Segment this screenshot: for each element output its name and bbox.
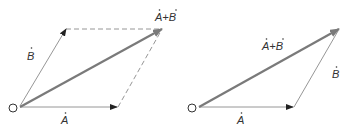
- dot-accent-icon: [241, 112, 243, 114]
- dot-accent-icon: [31, 47, 33, 49]
- left-diagram-parallelogram: B A A+B: [9, 9, 177, 126]
- sum-label-text: A+B: [154, 11, 176, 23]
- vector-a-label-text: A: [60, 114, 68, 126]
- dot-accent-icon: [175, 9, 177, 11]
- right-diagram-triangle: A+B B A: [188, 29, 339, 126]
- origin-marker: [188, 104, 196, 112]
- vector-b-label-text: B: [332, 68, 339, 80]
- vector-b-label: B: [27, 47, 34, 62]
- vector-a-label: A: [60, 112, 68, 126]
- sum-vector-arrow: [20, 29, 162, 107]
- origin-marker: [9, 104, 17, 112]
- vector-a-label-text: A: [236, 114, 244, 126]
- sum-label-text: A+B: [261, 40, 283, 52]
- dot-accent-icon: [159, 9, 161, 11]
- vector-b-label-text: B: [27, 50, 34, 62]
- dot-accent-icon: [282, 38, 284, 40]
- dot-accent-icon: [266, 38, 268, 40]
- sum-label: A+B: [154, 9, 177, 23]
- vector-a-label: A: [236, 112, 244, 126]
- dot-accent-icon: [65, 112, 67, 114]
- sum-label: A+B: [261, 38, 284, 52]
- vector-addition-figure: B A A+B A+B B A: [0, 0, 351, 133]
- dot-accent-icon: [336, 66, 338, 68]
- vector-b-label: B: [332, 66, 339, 80]
